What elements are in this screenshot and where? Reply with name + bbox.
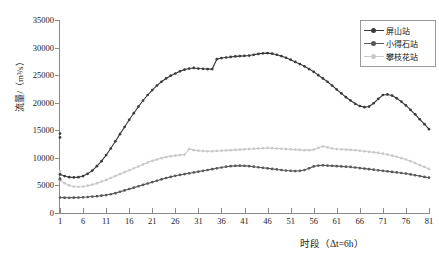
data-point [188,148,191,151]
data-point [96,195,99,198]
data-point [151,89,154,92]
data-point [377,98,380,101]
data-point [280,169,283,172]
data-point [354,166,357,169]
data-point [395,97,398,100]
data-point [225,165,228,168]
x-tick-mark [429,208,430,213]
data-point [123,189,126,192]
x-tick-label: 71 [372,216,394,226]
data-point [169,176,172,179]
x-tick-label: 26 [164,216,186,226]
data-point [345,165,348,168]
data-point [303,169,306,172]
data-point [248,54,251,57]
data-point [331,84,334,87]
legend-item-2[interactable]: 攀枝花站 [364,50,433,63]
data-point [132,186,135,189]
data-point [179,174,182,177]
data-point [105,194,108,197]
data-point [91,169,94,172]
data-point [275,147,278,150]
data-point [105,154,108,157]
data-point [234,149,237,152]
data-point [409,173,412,176]
data-point [391,154,394,157]
data-point [63,175,66,178]
y-tick-label: 0 [8,209,54,217]
data-point [358,167,361,170]
data-point [183,173,186,176]
chart-container: 流量/（m³/s） 050001000015000200002500030000… [0,0,439,256]
data-point [220,149,223,152]
data-point [137,105,140,108]
data-point [262,166,265,169]
data-point [169,74,172,77]
data-point [372,102,375,105]
data-point [275,168,278,171]
data-point [382,152,385,155]
data-point [77,185,80,188]
legend-label: 攀枝花站 [386,51,418,62]
data-point [340,148,343,151]
x-tick-label: 1 [49,216,71,226]
data-point [345,148,348,151]
data-point [192,171,195,174]
y-tick-label: 30000 [8,44,54,52]
data-point [109,177,112,180]
data-point [299,63,302,66]
data-point [179,70,182,73]
data-point [308,68,311,71]
legend-item-1[interactable]: 小得石站 [364,37,433,50]
data-point [289,148,292,151]
data-point [326,80,329,83]
data-point [59,136,62,139]
data-point [405,158,408,161]
data-point [77,176,80,179]
x-tick-label: 21 [141,216,163,226]
data-point [156,158,159,161]
data-point [423,123,426,126]
data-point [266,147,269,150]
data-point [165,77,168,80]
data-point [252,53,255,56]
data-point [165,177,168,180]
data-point [151,160,154,163]
data-point [418,175,421,178]
data-point [409,109,412,112]
data-point [109,147,112,150]
data-point [243,148,246,151]
data-point [409,160,412,163]
legend-marker-icon [364,39,384,49]
series-0 [59,52,431,179]
data-point [372,151,375,154]
x-tick-label: 61 [326,216,348,226]
data-point [169,155,172,158]
data-point [354,149,357,152]
data-point [335,148,338,151]
data-point [358,149,361,152]
data-point [391,171,394,174]
data-point [86,196,89,199]
data-point [225,56,228,59]
y-tick-label: 15000 [8,126,54,134]
x-tick-label: 51 [280,216,302,226]
data-point [137,165,140,168]
legend-item-0[interactable]: 屏山站 [364,24,433,37]
data-point [63,196,66,199]
data-point [128,118,131,121]
x-tick-label: 66 [349,216,371,226]
x-tick-label: 46 [257,216,279,226]
data-point [156,84,159,87]
data-point [428,168,431,171]
data-point [340,92,343,95]
x-tick-label: 16 [118,216,140,226]
data-point [386,93,389,96]
legend-label: 小得石站 [386,38,418,49]
data-point [160,80,163,83]
data-point [109,193,112,196]
x-tick-label: 6 [72,216,94,226]
data-point [146,161,149,164]
data-point [317,164,320,167]
data-point [206,68,209,71]
